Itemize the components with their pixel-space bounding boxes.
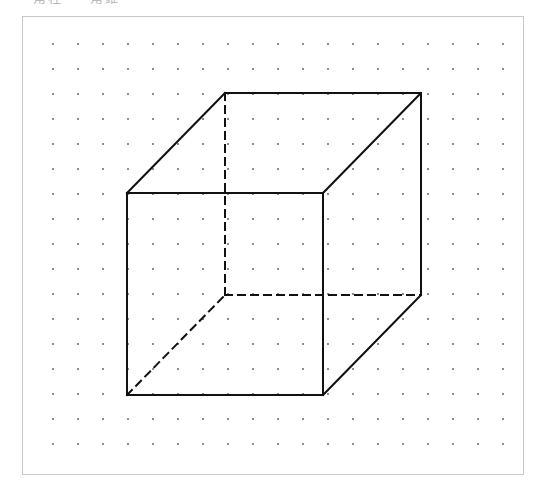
cube-visible-edge: [127, 93, 225, 193]
cube-solid-edges: [127, 93, 421, 395]
clipped-header-text: 角柱 ・ 角錐: [33, 0, 120, 4]
cube-isometric-drawing: [23, 17, 524, 475]
cube-hidden-edge: [127, 295, 225, 395]
figure-frame: [22, 16, 524, 475]
cube-visible-edge: [323, 295, 421, 395]
page-root: 角柱 ・ 角錐: [0, 0, 545, 493]
clipped-header-strip: 角柱 ・ 角錐: [0, 0, 545, 12]
cube-visible-edge: [323, 93, 421, 193]
